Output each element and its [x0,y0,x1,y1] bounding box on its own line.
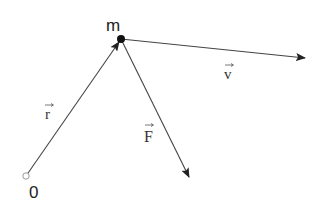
r-label: r [45,106,50,122]
v-label-group: v [224,64,234,83]
f-label: F [144,128,153,145]
r-label-group: r [45,104,54,123]
v-label: v [224,66,232,82]
force-vector-f [121,39,189,177]
position-vector-r [26,42,119,176]
mass-point [117,35,125,43]
velocity-vector-v [121,39,305,58]
origin-point [23,173,29,179]
mass-label: m [106,16,120,35]
vector-diagram: m 0 r v F [0,0,319,212]
f-label-group: F [144,124,154,146]
origin-label: 0 [29,183,38,202]
